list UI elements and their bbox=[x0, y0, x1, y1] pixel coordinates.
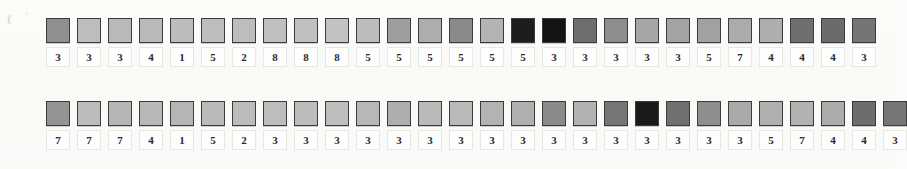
swatch-cell[interactable]: 7 bbox=[728, 18, 752, 67]
swatch-cell[interactable]: 3 bbox=[604, 18, 628, 67]
swatch-cell[interactable]: 4 bbox=[821, 18, 845, 67]
swatch-cell[interactable]: 3 bbox=[449, 101, 473, 150]
swatch-cell[interactable]: 3 bbox=[325, 101, 349, 150]
color-swatch[interactable] bbox=[480, 101, 504, 126]
color-swatch[interactable] bbox=[511, 18, 535, 43]
color-swatch[interactable] bbox=[449, 101, 473, 126]
color-swatch[interactable] bbox=[46, 101, 70, 126]
color-swatch[interactable] bbox=[325, 101, 349, 126]
swatch-cell[interactable]: 7 bbox=[46, 101, 70, 150]
swatch-cell[interactable]: 5 bbox=[480, 18, 504, 67]
swatch-cell[interactable]: 4 bbox=[759, 18, 783, 67]
color-swatch[interactable] bbox=[511, 101, 535, 126]
swatch-cell[interactable]: 5 bbox=[201, 101, 225, 150]
color-swatch[interactable] bbox=[604, 18, 628, 43]
swatch-cell[interactable]: 3 bbox=[356, 101, 380, 150]
swatch-cell[interactable]: 3 bbox=[573, 18, 597, 67]
swatch-cell[interactable]: 3 bbox=[77, 18, 101, 67]
swatch-cell[interactable]: 3 bbox=[635, 101, 659, 150]
color-swatch[interactable] bbox=[635, 18, 659, 43]
color-swatch[interactable] bbox=[728, 18, 752, 43]
swatch-cell[interactable]: 3 bbox=[666, 18, 690, 67]
color-swatch[interactable] bbox=[728, 101, 752, 126]
color-swatch[interactable] bbox=[542, 101, 566, 126]
swatch-cell[interactable]: 3 bbox=[418, 101, 442, 150]
color-swatch[interactable] bbox=[573, 18, 597, 43]
swatch-cell[interactable]: 4 bbox=[852, 101, 876, 150]
color-swatch[interactable] bbox=[480, 18, 504, 43]
color-swatch[interactable] bbox=[759, 101, 783, 126]
swatch-cell[interactable]: 4 bbox=[139, 101, 163, 150]
swatch-cell[interactable]: 3 bbox=[263, 101, 287, 150]
color-swatch[interactable] bbox=[635, 101, 659, 126]
swatch-cell[interactable]: 3 bbox=[604, 101, 628, 150]
color-swatch[interactable] bbox=[77, 18, 101, 43]
swatch-cell[interactable]: 5 bbox=[418, 18, 442, 67]
swatch-cell[interactable]: 3 bbox=[852, 18, 876, 67]
color-swatch[interactable] bbox=[821, 18, 845, 43]
color-swatch[interactable] bbox=[852, 101, 876, 126]
color-swatch[interactable] bbox=[356, 18, 380, 43]
swatch-cell[interactable]: 8 bbox=[263, 18, 287, 67]
swatch-cell[interactable]: 3 bbox=[697, 101, 721, 150]
swatch-cell[interactable]: 3 bbox=[294, 101, 318, 150]
color-swatch[interactable] bbox=[201, 101, 225, 126]
color-swatch[interactable] bbox=[883, 101, 907, 126]
color-swatch[interactable] bbox=[170, 18, 194, 43]
color-swatch[interactable] bbox=[294, 101, 318, 126]
swatch-cell[interactable]: 3 bbox=[573, 101, 597, 150]
color-swatch[interactable] bbox=[232, 18, 256, 43]
swatch-cell[interactable]: 8 bbox=[294, 18, 318, 67]
swatch-cell[interactable]: 3 bbox=[666, 101, 690, 150]
swatch-cell[interactable]: 2 bbox=[232, 18, 256, 67]
color-swatch[interactable] bbox=[356, 101, 380, 126]
swatch-cell[interactable]: 1 bbox=[170, 101, 194, 150]
swatch-cell[interactable]: 3 bbox=[46, 18, 70, 67]
color-swatch[interactable] bbox=[790, 101, 814, 126]
color-swatch[interactable] bbox=[852, 18, 876, 43]
swatch-cell[interactable]: 5 bbox=[511, 18, 535, 67]
swatch-cell[interactable]: 5 bbox=[449, 18, 473, 67]
color-swatch[interactable] bbox=[108, 18, 132, 43]
swatch-cell[interactable]: 3 bbox=[108, 18, 132, 67]
swatch-cell[interactable]: 3 bbox=[635, 18, 659, 67]
color-swatch[interactable] bbox=[77, 101, 101, 126]
color-swatch[interactable] bbox=[697, 18, 721, 43]
swatch-cell[interactable]: 5 bbox=[356, 18, 380, 67]
color-swatch[interactable] bbox=[294, 18, 318, 43]
color-swatch[interactable] bbox=[604, 101, 628, 126]
swatch-cell[interactable]: 7 bbox=[77, 101, 101, 150]
color-swatch[interactable] bbox=[666, 18, 690, 43]
color-swatch[interactable] bbox=[46, 18, 70, 43]
swatch-cell[interactable]: 5 bbox=[759, 101, 783, 150]
swatch-cell[interactable]: 3 bbox=[480, 101, 504, 150]
swatch-cell[interactable]: 5 bbox=[201, 18, 225, 67]
color-swatch[interactable] bbox=[790, 18, 814, 43]
color-swatch[interactable] bbox=[759, 18, 783, 43]
color-swatch[interactable] bbox=[449, 18, 473, 43]
color-swatch[interactable] bbox=[263, 101, 287, 126]
color-swatch[interactable] bbox=[418, 18, 442, 43]
color-swatch[interactable] bbox=[263, 18, 287, 43]
color-swatch[interactable] bbox=[387, 101, 411, 126]
color-swatch[interactable] bbox=[542, 18, 566, 43]
color-swatch[interactable] bbox=[201, 18, 225, 43]
color-swatch[interactable] bbox=[666, 101, 690, 126]
swatch-cell[interactable]: 4 bbox=[139, 18, 163, 67]
swatch-cell[interactable]: 3 bbox=[542, 18, 566, 67]
swatch-cell[interactable]: 3 bbox=[728, 101, 752, 150]
swatch-cell[interactable]: 1 bbox=[170, 18, 194, 67]
color-swatch[interactable] bbox=[821, 101, 845, 126]
swatch-cell[interactable]: 7 bbox=[108, 101, 132, 150]
color-swatch[interactable] bbox=[573, 101, 597, 126]
color-swatch[interactable] bbox=[139, 101, 163, 126]
swatch-cell[interactable]: 3 bbox=[511, 101, 535, 150]
swatch-cell[interactable]: 3 bbox=[883, 101, 907, 150]
color-swatch[interactable] bbox=[418, 101, 442, 126]
color-swatch[interactable] bbox=[139, 18, 163, 43]
color-swatch[interactable] bbox=[325, 18, 349, 43]
color-swatch[interactable] bbox=[387, 18, 411, 43]
color-swatch[interactable] bbox=[232, 101, 256, 126]
swatch-cell[interactable]: 5 bbox=[697, 18, 721, 67]
swatch-cell[interactable]: 5 bbox=[387, 18, 411, 67]
